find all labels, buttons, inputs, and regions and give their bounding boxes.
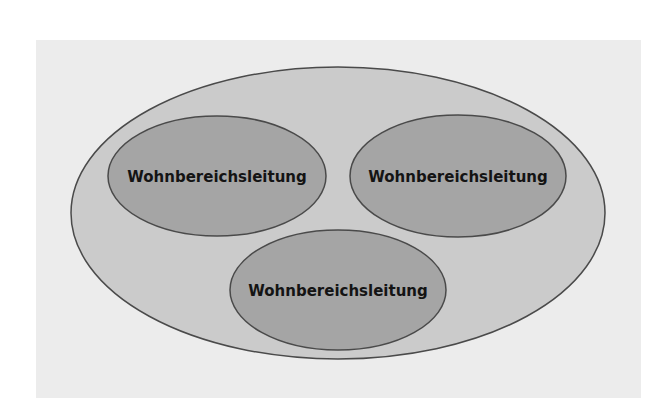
diagram-svg: Wohnbereichsleitung Wohnbereichsleitung … [0,0,661,413]
node-right-label: Wohnbereichsleitung [368,168,548,186]
node-left-label: Wohnbereichsleitung [127,168,307,186]
node-bottom-label: Wohnbereichsleitung [248,282,428,300]
node-bottom: Wohnbereichsleitung [230,230,446,350]
node-left: Wohnbereichsleitung [108,116,326,236]
diagram-canvas: Wohnbereichsleitung Wohnbereichsleitung … [0,0,661,413]
node-right: Wohnbereichsleitung [350,115,566,237]
